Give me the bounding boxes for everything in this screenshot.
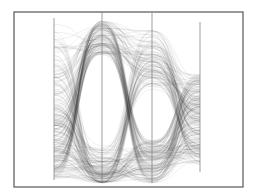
parallel-coordinates-figure bbox=[0, 0, 256, 195]
polyline-bundle bbox=[54, 21, 200, 183]
